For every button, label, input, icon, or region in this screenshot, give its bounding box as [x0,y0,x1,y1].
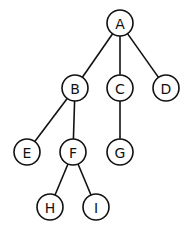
edge-a-b [82,34,112,78]
node-e: E [14,139,40,165]
tree-diagram: ABCDEFGHI [0,0,188,231]
node-i: I [83,194,109,220]
edge-b-f [73,101,74,139]
tree-edges [35,34,159,195]
node-label: B [70,81,80,97]
node-f: F [60,139,86,165]
node-label: A [115,16,125,32]
edge-b-e [35,98,67,141]
node-label: C [115,81,125,97]
node-h: H [37,194,63,220]
tree-nodes: ABCDEFGHI [14,10,179,220]
edge-f-h [55,164,68,195]
node-a: A [107,10,133,36]
node-label: D [161,81,172,97]
node-d: D [153,75,179,101]
node-g: G [107,139,133,165]
node-label: E [23,145,32,161]
node-label: H [45,200,56,216]
node-label: I [94,200,98,216]
node-c: C [107,75,133,101]
edge-a-d [128,34,159,78]
edge-f-i [78,164,91,195]
node-label: G [115,145,126,161]
node-b: B [62,75,88,101]
node-label: F [69,145,77,161]
